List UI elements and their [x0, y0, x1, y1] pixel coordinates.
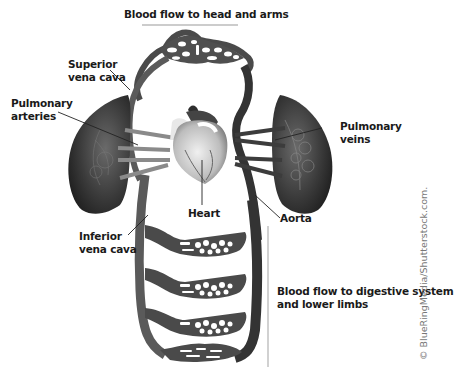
label-head-arms: Blood flow to head and arms: [124, 8, 288, 21]
lower-capillary-beds: [145, 225, 246, 362]
inferior-vena-cava-line2: vena cava: [79, 243, 137, 256]
label-pulmonary-veins: Pulmonary veins: [340, 120, 402, 146]
label-pulmonary-arteries: Pulmonary arteries: [11, 97, 73, 123]
superior-vena-cava-line2: vena cava: [68, 71, 126, 84]
head-arms-text: Blood flow to head and arms: [124, 8, 288, 21]
pulmonary-arteries-line2: arteries: [11, 110, 73, 123]
pulmonary-arteries-line1: Pulmonary: [11, 97, 73, 110]
heart-illustration: [170, 106, 227, 185]
left-lung: [68, 95, 130, 214]
pulmonary-veins-line1: Pulmonary: [340, 120, 402, 133]
superior-vena-cava-line1: Superior: [68, 58, 126, 71]
label-aorta: Aorta: [280, 212, 312, 225]
heart-text: Heart: [188, 207, 220, 220]
aorta-text: Aorta: [280, 212, 312, 225]
pulmonary-veins-line2: veins: [340, 133, 402, 146]
inferior-vena-cava-line1: Inferior: [79, 230, 137, 243]
label-inferior-vena-cava: Inferior vena cava: [79, 230, 137, 256]
copyright-credit: © BlueRingMedia/Shutterstock.com.: [418, 187, 429, 360]
label-heart: Heart: [188, 207, 220, 220]
label-superior-vena-cava: Superior vena cava: [68, 58, 126, 84]
right-lung: [272, 95, 332, 214]
